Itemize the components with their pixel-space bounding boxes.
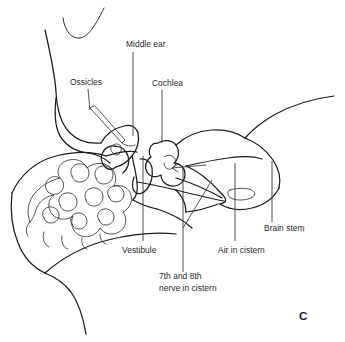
label-air-in-cistern: Air in cistern bbox=[218, 245, 265, 255]
anatomy-line-drawing: Middle ear Ossicles Cochlea Vestibule 7t… bbox=[0, 0, 345, 342]
label-brain-stem: Brain stem bbox=[264, 223, 305, 233]
anatomical-figure-panel: Middle ear Ossicles Cochlea Vestibule 7t… bbox=[0, 0, 345, 342]
label-ossicles: Ossicles bbox=[70, 77, 102, 87]
label-nerve-in-cistern-line2: nerve in cistern bbox=[159, 283, 217, 293]
panel-letter-label: C bbox=[299, 310, 307, 322]
label-nerve-in-cistern-line1: 7th and 8th bbox=[159, 271, 202, 281]
label-vestibule: Vestibule bbox=[122, 245, 157, 255]
label-middle-ear: Middle ear bbox=[126, 39, 166, 49]
label-cochlea: Cochlea bbox=[152, 78, 183, 88]
